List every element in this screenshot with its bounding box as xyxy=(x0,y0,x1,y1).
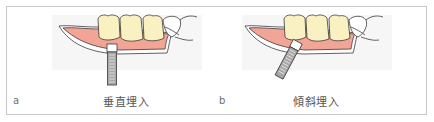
panel-letter-a: a xyxy=(13,95,19,106)
tooth-2 xyxy=(120,15,143,41)
figure-frame: a 垂直埋入 xyxy=(6,6,427,115)
panel-b: b 傾斜埋入 xyxy=(217,7,427,114)
teeth xyxy=(284,15,350,41)
tooth-3 xyxy=(143,15,164,41)
implant-vertical xyxy=(107,44,117,85)
implant-body xyxy=(108,52,117,85)
tooth-3 xyxy=(329,15,350,41)
tooth-2 xyxy=(306,15,329,41)
teeth xyxy=(98,15,164,41)
panel-caption-b: 傾斜埋入 xyxy=(293,93,339,109)
panel-letter-b: b xyxy=(219,95,225,106)
implant-collar xyxy=(107,44,117,52)
tooth-1 xyxy=(98,15,120,40)
tooth-1 xyxy=(284,15,306,40)
panel-a: a 垂直埋入 xyxy=(7,7,217,114)
panel-caption-a: 垂直埋入 xyxy=(103,93,149,109)
